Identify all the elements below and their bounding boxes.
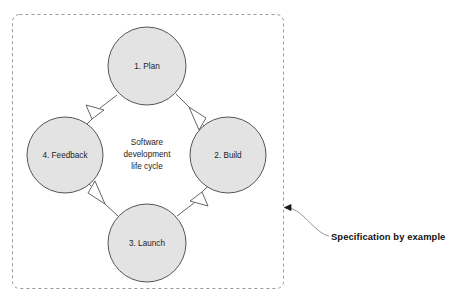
node-build[interactable]: 2. Build [190, 117, 266, 193]
connector-build-to-launch [177, 184, 210, 216]
annotation-callout: Specification by example [285, 205, 446, 243]
node-plan-label: 1. Plan [134, 62, 160, 71]
annotation-leader-line [289, 208, 329, 236]
center-caption-line-3: life cycle [131, 162, 163, 171]
center-caption-line-2: development [124, 150, 172, 159]
center-caption: Software development life cycle [124, 138, 172, 171]
connector-feedback-to-plan [84, 95, 117, 127]
node-feedback[interactable]: 4. Feedback [27, 117, 103, 193]
node-launch[interactable]: 3. Launch [108, 204, 186, 282]
node-feedback-label: 4. Feedback [42, 151, 88, 160]
center-caption-line-1: Software [131, 138, 164, 147]
node-build-label: 2. Build [214, 151, 242, 160]
node-launch-label: 3. Launch [129, 239, 165, 248]
sdlc-diagram: Software development life cycle 1. Plan … [0, 0, 454, 305]
annotation-arrow-icon [285, 205, 292, 211]
diagram-canvas: Software development life cycle 1. Plan … [0, 0, 454, 305]
annotation-label: Specification by example [331, 231, 445, 242]
node-plan[interactable]: 1. Plan [108, 27, 186, 105]
